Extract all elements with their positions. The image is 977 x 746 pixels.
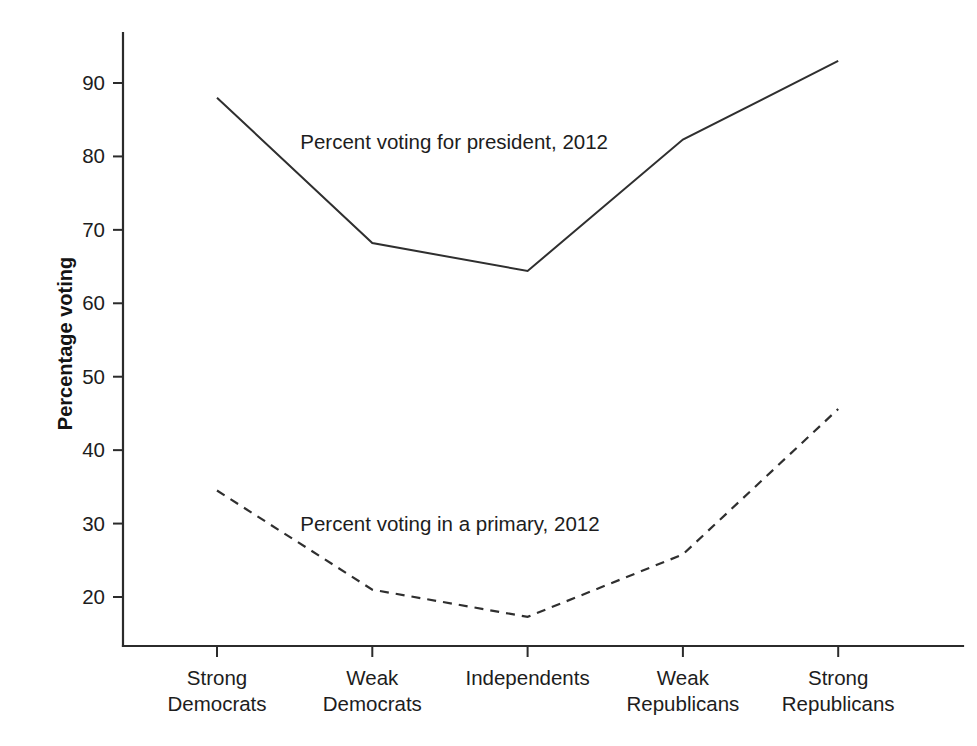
series-annotation-president: Percent voting for president, 2012 [300, 130, 608, 154]
y-axis-tick-label: 50 [55, 365, 105, 389]
y-axis-tick-label: 90 [55, 71, 105, 95]
x-axis-tick-label: Independents [465, 665, 589, 691]
y-axis-title: Percentage voting [54, 244, 77, 444]
x-axis-tick-label: StrongRepublicans [782, 665, 895, 717]
x-axis-tick-label-line: Democrats [323, 691, 422, 717]
y-axis-tick-label: 30 [55, 512, 105, 536]
x-axis-tick-label-line: Strong [167, 665, 266, 691]
x-axis-tick-label: WeakRepublicans [626, 665, 739, 717]
x-axis-tick-label-line: Independents [465, 665, 589, 691]
x-axis-tick-label: WeakDemocrats [323, 665, 422, 717]
x-axis-tick-label-line: Republicans [626, 691, 739, 717]
x-axis-tick-label-line: Weak [323, 665, 422, 691]
y-axis-tick-label: 60 [55, 291, 105, 315]
chart-figure: Percentage voting 2030405060708090 Stron… [0, 0, 977, 746]
y-axis-tick-label: 20 [55, 585, 105, 609]
x-axis-tick-label-line: Weak [626, 665, 739, 691]
x-axis-tick-marks [217, 646, 838, 657]
y-axis-tick-label: 80 [55, 144, 105, 168]
series-line-percent-voting-for-president [217, 61, 838, 271]
y-axis-tick-marks [113, 83, 123, 597]
x-axis-tick-label: StrongDemocrats [167, 665, 266, 717]
x-axis-tick-label-line: Strong [782, 665, 895, 691]
y-axis-tick-label: 40 [55, 438, 105, 462]
series-annotation-primary: Percent voting in a primary, 2012 [300, 512, 599, 536]
chart-plot-area [0, 0, 977, 746]
x-axis-tick-label-line: Republicans [782, 691, 895, 717]
x-axis-tick-label-line: Democrats [167, 691, 266, 717]
y-axis-tick-label: 70 [55, 218, 105, 242]
